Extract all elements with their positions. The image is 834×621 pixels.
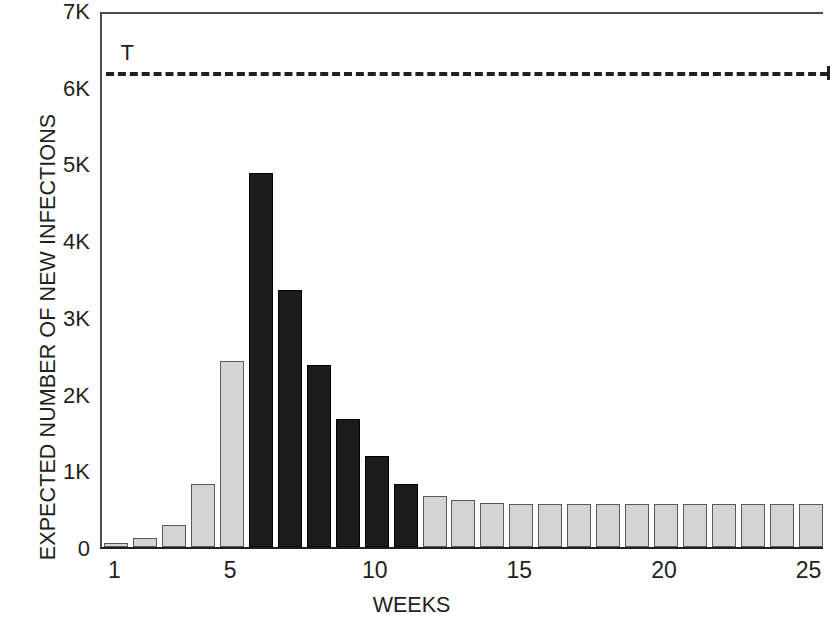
bar-week-23 [741,504,765,547]
bar-week-25 [799,504,823,547]
bar-week-5 [220,361,244,547]
y-tick-6K: 6K [46,78,90,100]
bar-week-2 [133,538,157,547]
x-tick-5: 5 [200,556,260,584]
x-tick-15: 15 [489,556,549,584]
bar-week-15 [509,504,533,547]
x-tick-10: 10 [345,556,405,584]
bar-week-1 [104,543,128,547]
bar-week-19 [625,504,649,547]
bar-week-16 [538,504,562,547]
threshold-label: T [120,42,133,64]
bar-week-11 [394,484,418,547]
y-tick-3K: 3K [46,308,90,330]
y-tick-7K: 7K [46,1,90,23]
threshold-end-tick [827,66,830,80]
bar-week-14 [480,503,504,547]
x-axis-tick-labels: 1510152025 [0,556,823,586]
bar-week-12 [423,496,447,547]
plot-area: T [100,12,823,549]
y-axis-tick-labels: 01K2K3K4K5K6K7K [38,0,90,621]
threshold-dashed-line [106,72,827,76]
bar-week-22 [712,504,736,547]
bar-series [102,14,823,547]
bar-week-17 [567,504,591,547]
bar-week-8 [307,365,331,547]
y-tick-1K: 1K [46,461,90,483]
y-tick-5K: 5K [46,154,90,176]
bar-week-3 [162,525,186,547]
x-axis-title: WEEKS [0,592,823,618]
y-tick-4K: 4K [46,231,90,253]
bar-week-20 [654,504,678,547]
x-tick-20: 20 [634,556,694,584]
bar-week-18 [596,504,620,547]
bar-week-21 [683,504,707,547]
bar-week-24 [770,504,794,547]
bar-week-9 [336,419,360,547]
bar-week-4 [191,484,215,547]
x-tick-1: 1 [84,556,144,584]
y-tick-2K: 2K [46,385,90,407]
bar-week-7 [278,290,302,547]
bar-week-10 [365,456,389,547]
x-tick-25: 25 [779,556,834,584]
bar-week-13 [451,500,475,547]
bar-week-6 [249,173,273,547]
